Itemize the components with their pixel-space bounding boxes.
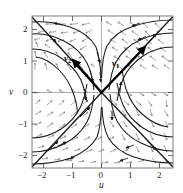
x-tick-label-2: 2 (157, 171, 162, 180)
y-tick-label-0: 0 (23, 88, 28, 97)
x-tick-label-0: 0 (99, 171, 104, 180)
eigenvector-label-v1-sub: 1 (116, 62, 119, 69)
y-tick-label-neg2: −2 (18, 151, 28, 160)
y-tick-label-2: 2 (23, 25, 28, 34)
eigenvector-label-v1: v1 (112, 59, 119, 68)
y-tick-label-neg1: −1 (18, 120, 28, 129)
x-tick-label-neg2: −2 (37, 171, 47, 180)
x-tick-label-neg1: −1 (66, 171, 76, 180)
phase-portrait-figure: −2 −1 0 1 2 2 1 0 −1 −2 u v v1 v2 (0, 0, 183, 193)
x-tick-label-1: 1 (128, 171, 133, 180)
eigenvector-label-v2-sub: 2 (68, 57, 71, 64)
saddle-fixed-point (100, 91, 103, 94)
eigenvector-label-v2: v2 (64, 54, 71, 63)
y-axis-title: v (9, 88, 13, 98)
x-axis-title: u (99, 181, 104, 191)
y-tick-label-1: 1 (23, 57, 28, 66)
